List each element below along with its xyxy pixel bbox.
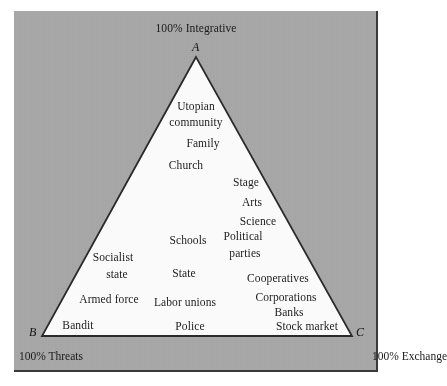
axis-caption-exchange: 100% Exchange	[372, 350, 447, 362]
item-label-community: community	[169, 116, 222, 129]
vertex-label-c: C	[356, 326, 364, 338]
item-label-stock-market: Stock market	[276, 320, 338, 333]
item-label-banks: Banks	[274, 306, 303, 319]
item-label-armed-force: Armed force	[79, 293, 139, 306]
item-label-arts: Arts	[242, 196, 262, 209]
item-label-family: Family	[186, 137, 219, 150]
item-label-state: State	[172, 267, 196, 280]
item-label-church: Church	[169, 159, 203, 172]
axis-caption-threats: 100% Threats	[19, 350, 83, 362]
item-label-police: Police	[175, 320, 204, 333]
item-label-parties: parties	[229, 247, 260, 260]
item-label-science: Science	[240, 215, 276, 228]
vertex-label-a: A	[192, 41, 199, 53]
item-label-bandit: Bandit	[62, 319, 93, 332]
item-label-labor-unions: Labor unions	[154, 296, 216, 309]
vertex-label-b: B	[29, 326, 36, 338]
item-label-political: Political	[223, 230, 262, 243]
item-label-utopian: Utopian	[177, 100, 215, 113]
item-label-stage: Stage	[233, 176, 259, 189]
item-label-state-word: state	[106, 268, 128, 281]
item-label-schools: Schools	[169, 234, 206, 247]
item-label-corporations: Corporations	[255, 291, 316, 304]
item-label-socialist: Socialist	[93, 251, 134, 264]
item-label-cooperatives: Cooperatives	[247, 272, 309, 285]
apex-caption-integrative: 100% Integrative	[155, 22, 236, 35]
